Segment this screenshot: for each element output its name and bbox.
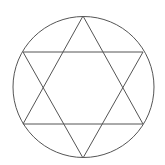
downward-triangle xyxy=(23,52,143,158)
outer-circle xyxy=(13,17,154,158)
upward-triangle xyxy=(23,16,143,124)
diagram-canvas xyxy=(0,0,165,165)
hexagram-diagram xyxy=(0,0,165,165)
